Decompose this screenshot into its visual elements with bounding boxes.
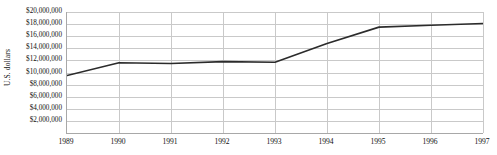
series-layer	[67, 12, 483, 133]
y-axis-tick-label: $6,000,000	[30, 93, 62, 100]
y-axis-tick-label: $14,000,000	[26, 45, 62, 52]
y-axis-tick-label: $20,000,000	[26, 8, 62, 15]
x-axis-tick-label: 1995	[370, 137, 385, 147]
y-axis-tick-label: $2,000,000	[30, 117, 62, 124]
y-axis-tick-label: $8,000,000	[30, 81, 62, 88]
y-axis-title: U.S. dollars	[0, 0, 14, 134]
x-axis-tick-label: 1993	[266, 137, 281, 147]
x-axis-tick-label: 1991	[162, 137, 177, 147]
x-axis-tick-labels: 198919901991199219931994199519961997	[0, 137, 497, 153]
x-axis-tick-label: 1994	[318, 137, 333, 147]
y-axis-tick-labels: $2,000,000$4,000,000$6,000,000$8,000,000…	[14, 0, 64, 140]
line-chart: U.S. dollars $2,000,000$4,000,000$6,000,…	[0, 0, 497, 155]
x-axis-tick-label: 1992	[214, 137, 229, 147]
plot-area	[66, 12, 483, 134]
y-axis-title-label: U.S. dollars	[3, 49, 12, 86]
y-axis-tick-label: $4,000,000	[30, 105, 62, 112]
y-axis-tick-label: $12,000,000	[26, 57, 62, 64]
x-axis-tick-label: 1997	[474, 137, 489, 147]
data-line-us-dollars	[67, 23, 483, 75]
x-axis-tick-label: 1990	[110, 137, 125, 147]
x-axis-tick-label: 1989	[58, 137, 73, 147]
gridline-vertical	[483, 12, 484, 133]
y-axis-tick-label: $10,000,000	[26, 69, 62, 76]
x-axis-tick-label: 1996	[422, 137, 437, 147]
y-axis-tick-label: $16,000,000	[26, 33, 62, 40]
y-axis-tick-label: $18,000,000	[26, 20, 62, 27]
